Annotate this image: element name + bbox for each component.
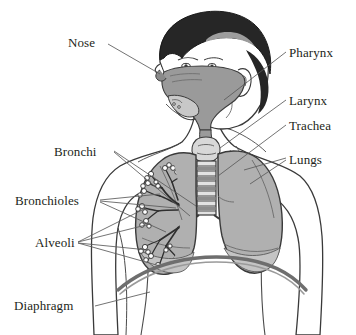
label-larynx: Larynx <box>289 94 327 107</box>
label-pharynx: Pharynx <box>289 46 333 59</box>
label-alveoli: Alveoli <box>35 236 75 249</box>
respiratory-system-diagram: Nose Bronchi Bronchioles Alveoli Diaphra… <box>0 0 356 335</box>
label-lungs: Lungs <box>289 153 322 166</box>
label-bronchioles: Bronchioles <box>15 194 79 207</box>
label-nose: Nose <box>68 36 95 49</box>
label-bronchi: Bronchi <box>54 145 97 158</box>
label-diaphragm: Diaphragm <box>14 299 73 312</box>
label-trachea: Trachea <box>289 119 331 132</box>
